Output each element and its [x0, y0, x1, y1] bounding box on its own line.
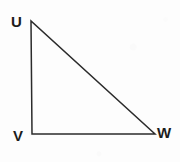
triangle-uvw-outline	[31, 21, 155, 134]
triangle-svg	[0, 0, 180, 162]
vertex-label-u: U	[11, 14, 22, 29]
geometry-figure-canvas: U V W	[0, 0, 180, 162]
vertex-label-w: W	[157, 125, 171, 140]
vertex-label-v: V	[13, 128, 23, 143]
